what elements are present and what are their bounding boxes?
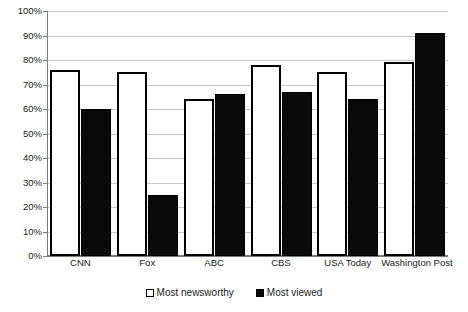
bar-group — [248, 11, 315, 256]
bar-group — [114, 11, 181, 256]
chart-legend: Most newsworthyMost viewed — [0, 288, 468, 298]
x-tick-label-fox: Fox — [114, 258, 181, 268]
y-axis: 0%10%20%30%40%50%60%70%80%90%100% — [0, 11, 42, 256]
y-tick-label: 40% — [2, 153, 42, 163]
x-tick-label-cnn: CNN — [47, 258, 114, 268]
bar-cnn-most-viewed — [81, 109, 111, 256]
bar-washington-post-most-newsworthy — [384, 62, 414, 256]
bar-group — [47, 11, 114, 256]
y-tick-label: 90% — [2, 31, 42, 41]
legend-label: Most viewed — [267, 288, 323, 298]
bar-usa-today-most-newsworthy — [317, 72, 347, 256]
y-tick-label: 100% — [2, 6, 42, 16]
legend-swatch-icon — [146, 289, 154, 297]
legend-label: Most newsworthy — [157, 288, 234, 298]
y-tick-label: 30% — [2, 178, 42, 188]
bar-fox-most-newsworthy — [117, 72, 147, 256]
bar-group — [314, 11, 381, 256]
y-tick-label: 70% — [2, 80, 42, 90]
bar-cnn-most-newsworthy — [50, 70, 80, 256]
bar-washington-post-most-viewed — [415, 33, 445, 256]
legend-item-most-newsworthy[interactable]: Most newsworthy — [146, 288, 234, 298]
bar-group — [181, 11, 248, 256]
y-tick-label: 60% — [2, 104, 42, 114]
bar-group — [381, 11, 448, 256]
x-tick-label-abc: ABC — [181, 258, 248, 268]
bar-abc-most-viewed — [215, 94, 245, 256]
y-tick-label: 0% — [2, 251, 42, 261]
y-tick-label: 50% — [2, 129, 42, 139]
y-tick-label: 10% — [2, 227, 42, 237]
x-tick-label-washington-post: Washington Post — [381, 258, 448, 268]
bar-cbs-most-viewed — [282, 92, 312, 256]
legend-swatch-icon — [256, 289, 264, 297]
x-axis: CNNFoxABCCBSUSA TodayWashington Post — [47, 258, 448, 276]
bar-chart: 0%10%20%30%40%50%60%70%80%90%100% CNNFox… — [0, 0, 468, 312]
bar-cbs-most-newsworthy — [251, 65, 281, 256]
bar-usa-today-most-viewed — [348, 99, 378, 256]
y-tick-mark — [43, 256, 48, 257]
bar-fox-most-viewed — [148, 195, 178, 256]
bars-layer — [47, 11, 448, 256]
y-tick-label: 80% — [2, 55, 42, 65]
x-tick-label-cbs: CBS — [248, 258, 315, 268]
legend-item-most-viewed[interactable]: Most viewed — [256, 288, 323, 298]
x-tick-label-usa-today: USA Today — [314, 258, 381, 268]
y-tick-label: 20% — [2, 202, 42, 212]
bar-abc-most-newsworthy — [184, 99, 214, 256]
